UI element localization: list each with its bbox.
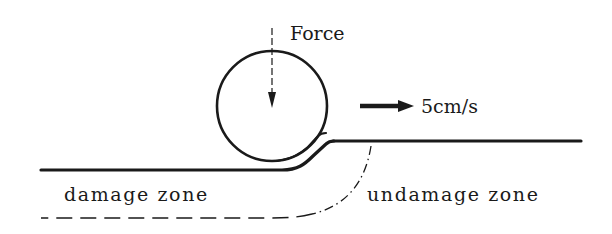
damaged-surface-line (41, 141, 334, 170)
force-arrow-head-icon (268, 92, 276, 108)
velocity-label: 5cm/s (421, 95, 478, 117)
force-label: Force (290, 22, 345, 44)
zone-boundary-dashed-line (41, 214, 312, 218)
damage-zone-label: damage zone (64, 183, 209, 205)
undamage-zone-label: undamage zone (367, 183, 540, 205)
roller-damage-diagram: Force 5cm/s damage zone undamage zone (0, 0, 612, 234)
zone-boundary-curve (312, 146, 371, 214)
velocity-arrow-head-icon (398, 100, 414, 112)
